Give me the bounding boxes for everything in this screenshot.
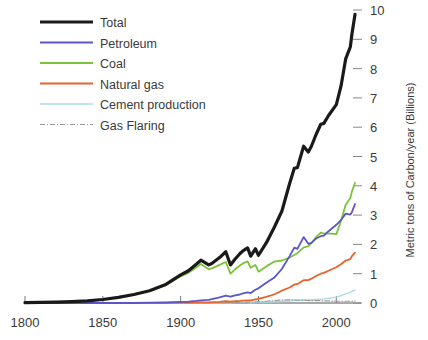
y-tick-label: 4 <box>370 179 377 194</box>
y-tick-label: 5 <box>370 150 377 165</box>
legend-label: Coal <box>100 57 126 71</box>
emissions-chart: 18001850190019502000012345678910Metric t… <box>0 0 428 340</box>
legend-label: Cement production <box>100 98 206 112</box>
series-line <box>25 253 355 303</box>
y-tick-label: 2 <box>370 237 377 252</box>
legend-label: Gas Flaring <box>100 119 165 133</box>
chart-canvas: 18001850190019502000012345678910Metric t… <box>0 0 428 340</box>
series-line <box>25 14 355 302</box>
y-axis-title: Metric tons of Carbon/year (Billions) <box>404 83 416 258</box>
legend-label: Petroleum <box>100 37 157 51</box>
y-tick-label: 3 <box>370 208 377 223</box>
x-tick-label: 1800 <box>11 315 40 330</box>
y-tick-label: 6 <box>370 120 377 135</box>
legend-label: Total <box>100 16 126 30</box>
y-tick-label: 8 <box>370 62 377 77</box>
y-tick-label: 0 <box>370 296 377 311</box>
x-tick-label: 1900 <box>166 315 195 330</box>
y-tick-label: 10 <box>370 3 384 18</box>
x-tick-label: 1850 <box>88 315 117 330</box>
legend-label: Natural gas <box>100 78 164 92</box>
series-line <box>25 183 355 303</box>
x-tick-label: 1950 <box>244 315 273 330</box>
y-tick-label: 7 <box>370 91 377 106</box>
y-tick-label: 9 <box>370 32 377 47</box>
x-tick-label: 2000 <box>322 315 351 330</box>
series-line <box>25 204 355 303</box>
y-tick-label: 1 <box>370 267 377 282</box>
